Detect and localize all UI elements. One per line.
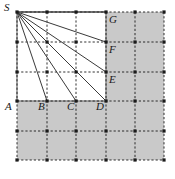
shaded-cell <box>135 131 164 160</box>
figure-caption <box>0 170 175 179</box>
shaded-cell <box>135 12 164 42</box>
ray-s-b <box>17 12 47 101</box>
point-label-s: S <box>4 2 10 13</box>
grid-node <box>15 10 18 13</box>
shaded-cell <box>135 42 164 72</box>
point-label-a: A <box>5 101 12 112</box>
grid-node <box>45 10 48 13</box>
grid-node <box>162 99 165 102</box>
ray-s-f <box>17 12 106 42</box>
grid-node <box>74 10 77 13</box>
ray-s-c <box>17 12 76 101</box>
point-label-d: D <box>96 101 104 112</box>
grid-node <box>74 158 77 161</box>
grid-node <box>133 10 136 13</box>
grid-node <box>162 40 165 43</box>
grid-node <box>45 99 48 102</box>
grid-node <box>45 129 48 132</box>
shaded-cell <box>135 101 164 131</box>
grid-node <box>15 99 18 102</box>
shaded-cell <box>76 131 106 160</box>
grid-node <box>162 70 165 73</box>
shaded-cell <box>106 131 135 160</box>
grid-node <box>104 70 107 73</box>
point-label-f: F <box>109 44 116 55</box>
grid-node <box>74 40 77 43</box>
grid-node <box>133 129 136 132</box>
rays-from-s <box>17 12 106 101</box>
figure-canvas <box>0 0 175 179</box>
grid-node <box>74 129 77 132</box>
grid-node <box>162 10 165 13</box>
grid-node <box>45 70 48 73</box>
geometry-figure: SABCDEFG <box>0 0 175 179</box>
grid-node <box>45 40 48 43</box>
grid-node <box>133 99 136 102</box>
point-label-b: B <box>38 101 45 112</box>
point-label-c: C <box>67 101 74 112</box>
grid-node <box>15 129 18 132</box>
grid-node <box>74 70 77 73</box>
grid-node <box>104 40 107 43</box>
grid-node <box>15 70 18 73</box>
point-label-g: G <box>109 14 117 25</box>
point-label-e: E <box>109 74 116 85</box>
ray-s-d <box>17 12 106 101</box>
shaded-cell <box>17 131 47 160</box>
grid-node <box>133 70 136 73</box>
grid-node <box>162 158 165 161</box>
grid-node <box>104 129 107 132</box>
grid-node <box>15 158 18 161</box>
shaded-cell <box>106 101 135 131</box>
grid-node <box>104 99 107 102</box>
grid-node <box>74 99 77 102</box>
grid-node <box>133 158 136 161</box>
grid-node <box>133 40 136 43</box>
grid-node <box>104 10 107 13</box>
shaded-cell <box>135 72 164 101</box>
grid-node <box>104 158 107 161</box>
shaded-cell <box>47 131 76 160</box>
grid-node <box>15 40 18 43</box>
grid-node <box>162 129 165 132</box>
grid-node <box>45 158 48 161</box>
